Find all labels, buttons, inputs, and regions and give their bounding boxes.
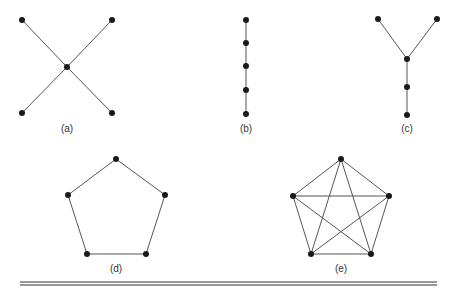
graph-d: (d) xyxy=(65,156,168,274)
graph-vertex xyxy=(404,84,410,90)
graph-label: (d) xyxy=(110,263,122,274)
graph-label: (c) xyxy=(401,123,413,134)
graph-figure: (a)(b)(c)(d)(e) xyxy=(0,0,459,293)
graph-edge xyxy=(311,196,389,254)
graph-vertex xyxy=(308,251,314,257)
graph-vertex xyxy=(368,251,374,257)
graph-vertex xyxy=(243,111,249,117)
graph-vertex xyxy=(243,17,249,23)
graph-vertex xyxy=(84,251,90,257)
graph-vertex xyxy=(243,63,249,69)
graph-vertex xyxy=(143,251,149,257)
graph-edge xyxy=(67,20,112,67)
graph-edge xyxy=(67,67,112,113)
graph-b: (b) xyxy=(240,17,252,134)
graph-edge xyxy=(378,19,407,59)
graph-vertex xyxy=(113,156,119,162)
graph-vertex xyxy=(64,64,70,70)
graph-edge xyxy=(371,196,389,254)
graph-edge xyxy=(341,159,389,196)
graph-edge xyxy=(22,67,67,113)
graph-vertex xyxy=(109,110,115,116)
graph-vertex xyxy=(386,193,392,199)
graph-edge xyxy=(341,159,371,254)
graph-vertex xyxy=(290,193,296,199)
graph-vertex xyxy=(65,192,71,198)
graph-edge xyxy=(116,159,165,195)
graph-edge xyxy=(407,19,437,59)
double-rule xyxy=(20,282,437,285)
graph-vertex xyxy=(109,17,115,23)
graph-vertex xyxy=(375,16,381,22)
graph-a: (a) xyxy=(19,17,115,134)
graph-edge xyxy=(68,195,87,254)
graph-vertex xyxy=(434,16,440,22)
graph-edge xyxy=(293,196,371,254)
graph-vertex xyxy=(19,17,25,23)
graph-label: (a) xyxy=(61,123,73,134)
graph-label: (b) xyxy=(240,123,252,134)
graph-label: (e) xyxy=(335,263,347,274)
graph-edge xyxy=(293,196,311,254)
graph-edge xyxy=(311,159,341,254)
graph-e: (e) xyxy=(290,156,392,274)
graph-vertex xyxy=(404,112,410,118)
graph-vertex xyxy=(243,87,249,93)
graph-edge xyxy=(293,159,341,196)
graph-vertex xyxy=(338,156,344,162)
graphs-layer: (a)(b)(c)(d)(e) xyxy=(19,16,440,274)
graph-edge xyxy=(146,195,165,254)
graph-vertex xyxy=(404,56,410,62)
graph-vertex xyxy=(243,40,249,46)
graph-c: (c) xyxy=(375,16,440,134)
graph-vertex xyxy=(19,110,25,116)
graph-edge xyxy=(22,20,67,67)
graph-vertex xyxy=(162,192,168,198)
graph-edge xyxy=(68,159,116,195)
